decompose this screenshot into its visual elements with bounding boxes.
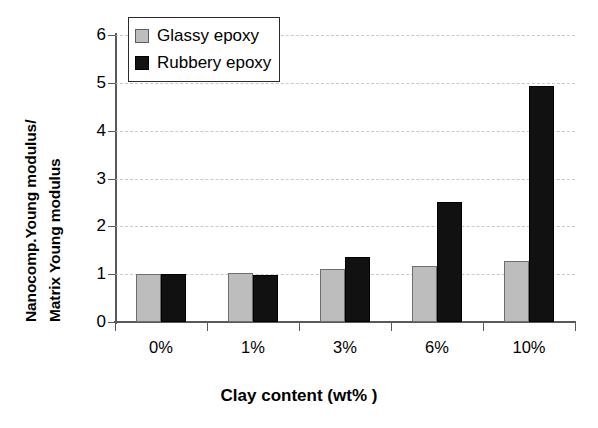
y-tick-label: 4 [97, 121, 106, 141]
x-tick-label-0pct: 0% [149, 338, 173, 357]
bar-rubbery-epoxy-3pct[interactable] [345, 257, 370, 322]
legend: Glassy epoxy Rubbery epoxy [128, 17, 280, 82]
x-tick-mark [207, 322, 208, 331]
bar-glassy-epoxy-1pct[interactable] [228, 273, 253, 322]
y-tick-label: 6 [97, 25, 106, 45]
bar-glassy-epoxy-0pct[interactable] [136, 274, 161, 322]
y-tick-mark [108, 179, 116, 180]
y-tick-mark [108, 226, 116, 227]
x-tick-label-3pct: 3% [333, 338, 357, 357]
x-tick-label-10pct: 10% [512, 338, 545, 357]
y-tick-label: 3 [97, 169, 106, 189]
gridline [115, 226, 575, 228]
y-tick-mark [108, 131, 116, 132]
legend-label-rubbery: Rubbery epoxy [157, 53, 271, 73]
x-axis-title: Clay content (wt% ) [0, 386, 598, 406]
x-tick-mark [299, 322, 300, 331]
legend-item-glassy-epoxy[interactable]: Glassy epoxy [135, 22, 271, 49]
bar-glassy-epoxy-6pct[interactable] [412, 266, 437, 322]
gridline [115, 179, 575, 181]
legend-swatch-rubbery-icon [135, 56, 149, 70]
legend-item-rubbery-epoxy[interactable]: Rubbery epoxy [135, 49, 271, 76]
bar-chart-figure: Nanocomp.Young modulus/ Matrix Young mod… [0, 0, 598, 428]
y-axis-title: Nanocomp.Young modulus/ Matrix Young mod… [0, 0, 96, 340]
gridline [115, 131, 575, 133]
x-tick-mark [575, 322, 576, 331]
y-tick-mark [108, 83, 116, 84]
y-tick-mark [108, 274, 116, 275]
x-tick-mark [115, 322, 116, 331]
x-tick-label-6pct: 6% [425, 338, 449, 357]
y-tick-label: 5 [97, 73, 106, 93]
x-tick-mark [483, 322, 484, 331]
bar-glassy-epoxy-10pct[interactable] [504, 261, 529, 322]
y-tick-label: 2 [97, 216, 106, 236]
y-axis-title-line-2: Matrix Young modulus [46, 158, 64, 322]
bar-rubbery-epoxy-10pct[interactable] [529, 86, 554, 322]
y-tick-label: 0 [97, 312, 106, 332]
bar-rubbery-epoxy-1pct[interactable] [253, 275, 278, 322]
x-tick-mark [391, 322, 392, 331]
y-axis-title-line-1: Nanocomp.Young modulus/ [22, 120, 40, 322]
legend-swatch-glassy-icon [135, 29, 149, 43]
bar-rubbery-epoxy-0pct[interactable] [161, 274, 186, 322]
y-tick-label: 1 [97, 264, 106, 284]
bar-rubbery-epoxy-6pct[interactable] [437, 202, 462, 322]
gridline [115, 83, 575, 85]
legend-label-glassy: Glassy epoxy [157, 26, 259, 46]
x-tick-label-1pct: 1% [241, 338, 265, 357]
bar-glassy-epoxy-3pct[interactable] [320, 269, 345, 322]
y-tick-mark [108, 35, 116, 36]
